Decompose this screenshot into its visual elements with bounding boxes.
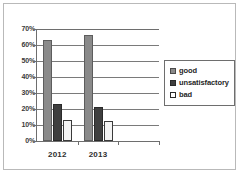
y-axis-tick-labels: 70%60%50%40%30%20%10%0%: [4, 4, 35, 175]
bar-2013-bad: [104, 121, 113, 141]
bar-2012-bad: [63, 120, 72, 141]
chart-legend: goodunsatisfactorybad: [164, 60, 235, 106]
legend-swatch-bad-icon: [170, 92, 176, 98]
gridline-30%: [37, 93, 159, 94]
legend-label: good: [179, 67, 197, 75]
legend-label: unsatisfactory: [179, 79, 229, 87]
chart-figure: 70%60%50%40%30%20%10%0% 20122013 gooduns…: [3, 3, 236, 170]
y-tick-label-0%: 0%: [7, 137, 35, 144]
gridline-70%: [37, 29, 159, 30]
legend-label: bad: [179, 91, 192, 99]
bar-2012-good: [43, 40, 52, 141]
bar-2013-good: [84, 35, 93, 141]
x-tick-mark-2012: [78, 141, 79, 145]
x-tick-label-2012: 2012: [37, 150, 77, 159]
y-tick-label-10%: 10%: [7, 121, 35, 128]
x-tick-mark-2013: [118, 141, 119, 145]
bar-2012-unsatisfactory: [53, 104, 62, 141]
y-tick-label-30%: 30%: [7, 89, 35, 96]
legend-item-unsatisfactory[interactable]: unsatisfactory: [170, 77, 230, 89]
plot-area: [37, 29, 159, 141]
gridline-50%: [37, 61, 159, 62]
gridline-60%: [37, 45, 159, 46]
legend-item-bad[interactable]: bad: [170, 89, 230, 101]
legend-item-good[interactable]: good: [170, 65, 230, 77]
y-tick-label-60%: 60%: [7, 41, 35, 48]
x-tick-mark-end: [159, 141, 160, 145]
gridline-40%: [37, 77, 159, 78]
bar-2013-unsatisfactory: [94, 107, 103, 141]
x-tick-label-2013: 2013: [78, 150, 118, 159]
y-tick-label-70%: 70%: [7, 25, 35, 32]
legend-swatch-good-icon: [170, 68, 176, 74]
legend-swatch-unsatisfactory-icon: [170, 80, 176, 86]
y-tick-label-40%: 40%: [7, 73, 35, 80]
y-tick-label-20%: 20%: [7, 105, 35, 112]
y-tick-label-50%: 50%: [7, 57, 35, 64]
x-axis-line: [37, 141, 160, 142]
